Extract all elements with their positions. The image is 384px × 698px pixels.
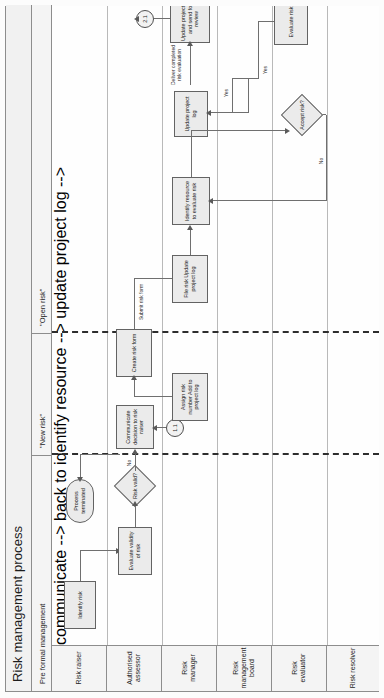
lane-label-risk-manager: Risk manager <box>162 645 217 691</box>
node-file-risk-update-log[interactable]: File risk Update project log <box>172 255 208 303</box>
edge-deliver-h <box>190 45 191 85</box>
edge-eval-yes-v <box>232 78 258 79</box>
lane-label-column: Risk raiser Authorised assessor Risk man… <box>52 645 379 691</box>
arrowhead-identify-resource-loop <box>208 198 213 204</box>
edge-evaluate-to-decision <box>135 504 136 527</box>
edge-connector-2-1 <box>154 18 170 19</box>
node-evaluate-validity-of-risk[interactable]: Evaluate validity of risk <box>118 527 152 575</box>
phase-divider-open-risk <box>52 331 379 333</box>
diagram-title-bar: Risk management process <box>6 5 32 691</box>
arrowhead-communicate-decision <box>132 449 138 454</box>
node-identify-risk[interactable]: Identify risk <box>64 581 96 629</box>
node-process-terminated[interactable]: Process terminated <box>66 479 94 523</box>
edge-accept-yes-h0 <box>248 79 249 113</box>
swimlane-diagram: Risk management process Pre formal manag… <box>5 6 379 692</box>
phase-header-open-risk: "Open risk" <box>32 5 52 333</box>
edge-accept-no-h <box>326 115 327 201</box>
arrowhead-identify-resource <box>187 225 193 230</box>
lane-divider-5 <box>327 6 328 645</box>
rotated-canvas: Risk management process Pre formal manag… <box>0 0 384 698</box>
edge-submit-risk-form <box>134 279 135 329</box>
arrowhead-update-log-send-review <box>187 41 193 46</box>
node-update-log-send-review[interactable]: Update project log and send for review <box>170 6 210 43</box>
connector-1-1[interactable]: 1.1 <box>166 419 184 437</box>
edge-communicate-to-terminated-v <box>80 454 120 455</box>
lane-divider-2 <box>162 6 163 645</box>
edge-label-accept-no: No <box>318 151 324 171</box>
lane-label-risk-management-board: Risk management board <box>217 645 272 691</box>
node-evaluate-risk[interactable]: Evaluate risk <box>274 6 308 45</box>
edge-identify-to-accept-v <box>191 130 287 131</box>
edge-communicate-to-terminated <box>80 455 81 479</box>
phase-header-pre-formal-management: Pre formal management <box>32 455 52 691</box>
edge-identify-to-evaluate <box>80 551 81 581</box>
arrowhead-update-project-log <box>206 110 211 116</box>
edge-evalrisk-left <box>258 22 259 79</box>
edge-accept-no-v2 <box>210 200 326 201</box>
edge-evalrisk-up <box>258 21 274 22</box>
phase-header-row: Pre formal management "New risk" "Open r… <box>32 5 52 691</box>
phase-header-new-risk: "New risk" <box>32 333 52 455</box>
lane-divider-4 <box>272 6 273 645</box>
diagram-canvas: Identify risk Process terminated Evaluat… <box>52 6 379 645</box>
node-accept-risk-label: Accept risk? <box>293 94 311 136</box>
arrowhead-accept-risk <box>285 128 290 134</box>
edge-assign-to-create-h <box>134 379 135 397</box>
node-communicate-decision[interactable]: Communicate decision to risk raiser <box>116 405 154 449</box>
node-create-risk-form[interactable]: Create risk form <box>116 329 152 377</box>
edge-label-deliver: Deliver completed risk evaluation <box>170 41 182 89</box>
edge-label-eval-yes: Yes <box>223 83 229 103</box>
lane-label-risk-resolver: Risk resolver <box>327 645 379 691</box>
arrowhead-connector-2-1 <box>134 16 139 22</box>
arrowhead-create-risk-form <box>131 375 137 380</box>
edge-label-no-valid: No <box>126 453 132 473</box>
node-assign-risk-number[interactable]: Assign risk number Add to project log <box>172 373 208 421</box>
edge-decision-no <box>135 453 136 471</box>
page-title: Risk management process <box>10 526 25 682</box>
edge-identify-to-evaluate-v <box>80 550 117 551</box>
arrowhead-risk-valid <box>132 501 138 506</box>
arrowhead-connector-1-1 <box>152 425 157 431</box>
lane-label-risk-raiser: Risk raiser <box>52 645 107 691</box>
edge-eval-yes-up <box>208 112 232 113</box>
edge-label-submit-risk-form: Submit risk form <box>138 279 144 325</box>
screenshot-frame: Risk management process Pre formal manag… <box>0 0 384 698</box>
lane-divider-3 <box>217 6 218 645</box>
edge-file-to-identify <box>190 229 191 255</box>
edge-label-accept-yes: Yes <box>262 59 268 81</box>
lane-label-risk-evaluator: Risk evaluator <box>272 645 327 691</box>
edge-eval-yes-h <box>232 79 233 113</box>
arrowhead-process-terminated <box>77 477 83 482</box>
edge-identify-to-accept-h <box>191 131 192 177</box>
lane-label-authorised-assessor: Authorised assessor <box>107 645 162 691</box>
node-identify-resource[interactable]: Identify resource to evaluate risk <box>172 177 210 225</box>
